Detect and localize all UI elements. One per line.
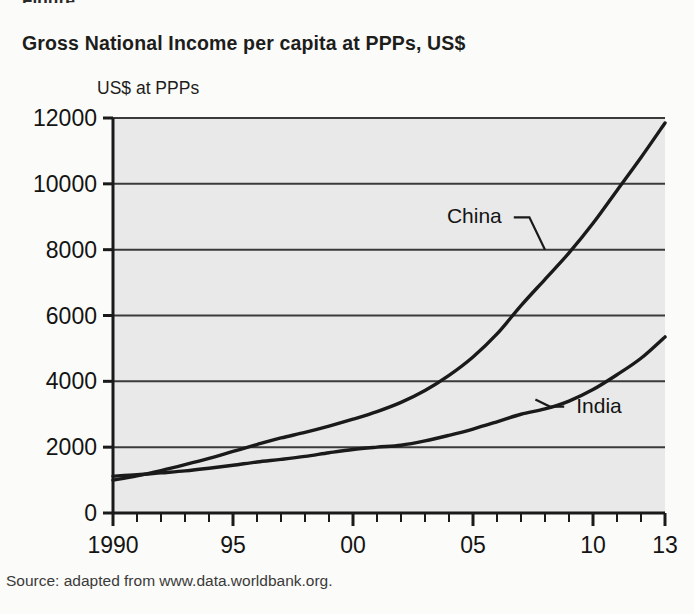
y-tick-label: 4000 [46,368,97,394]
y-tick-labels-group: 020004000600080001000012000 [33,105,97,526]
x-tick-label: 13 [652,532,678,558]
y-tick-label: 8000 [46,237,97,263]
x-tick-labels-group: 19909500051013 [87,532,677,558]
y-tick-label: 10000 [33,171,97,197]
series-label-china: China [447,204,502,227]
x-tick-label: 95 [220,532,246,558]
series-label-india: India [576,394,622,417]
source-note: Source: adapted from www.data.worldbank.… [6,572,333,590]
figure-container: Figure Gross National Income per capita … [0,0,694,614]
chart-plot-area: 020004000600080001000012000 199095000510… [0,0,694,560]
x-tick-label: 00 [340,532,366,558]
y-tick-label: 12000 [33,105,97,131]
x-tick-label: 05 [460,532,486,558]
x-tick-label: 1990 [87,532,138,558]
y-tick-label: 2000 [46,434,97,460]
y-tick-label: 0 [84,500,97,526]
y-tick-label: 6000 [46,303,97,329]
x-tick-label: 10 [580,532,606,558]
line-chart-svg: 020004000600080001000012000 199095000510… [0,0,694,560]
